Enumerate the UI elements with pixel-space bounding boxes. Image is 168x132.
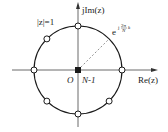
root-exponent-den: N (121, 28, 126, 33)
zero-marker (44, 98, 50, 104)
zero-marker (106, 98, 112, 104)
pole-order-label: N-1 (81, 75, 96, 85)
zero-marker (75, 111, 81, 117)
root-expression: e j 2π N k (112, 23, 131, 37)
origin-label: O (67, 75, 74, 85)
z-plane-diagram: jIm(z) Re(z) |z|=1 O N-1 e j 2π N k (0, 0, 168, 132)
imag-axis-label: jIm(z) (81, 5, 105, 15)
root-radius-dashed-line (78, 39, 109, 70)
real-axis-label: Re(z) (138, 75, 158, 85)
unit-circle-label: |z|=1 (37, 17, 54, 27)
pole-marker (75, 67, 81, 73)
zero-marker (119, 67, 125, 73)
real-axis-arrow-icon (151, 68, 158, 72)
imag-axis-arrow-icon (76, 2, 80, 9)
root-exponent-j: j (117, 25, 119, 30)
zero-marker (75, 23, 81, 29)
zero-marker (44, 36, 50, 42)
root-exponent-k: k (128, 25, 131, 30)
root-base: e (112, 27, 116, 37)
zero-marker (31, 67, 37, 73)
